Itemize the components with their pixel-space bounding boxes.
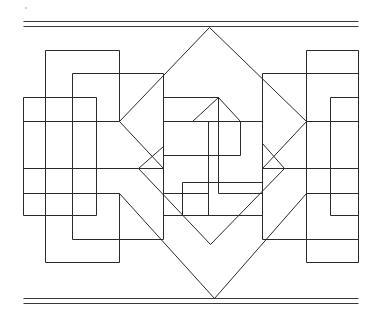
vertical-lines	[24, 51, 359, 263]
scan-specks	[25, 7, 27, 9]
geometric-line-diagram	[0, 0, 380, 323]
horizontal-lines	[24, 51, 359, 263]
diagonal-line	[193, 98, 219, 122]
diagonal-line	[219, 98, 241, 122]
border-rules	[24, 22, 359, 304]
diagonal-line	[120, 194, 215, 299]
diagonal-line	[211, 169, 285, 245]
diagonal-lines	[120, 28, 307, 299]
diagonal-line	[120, 28, 210, 122]
diagonal-line	[263, 122, 307, 169]
diagonal-line	[139, 169, 211, 245]
scan-speck	[25, 7, 27, 9]
diagonal-line	[210, 28, 307, 122]
diagonal-line	[120, 122, 164, 169]
diagram-svg	[0, 0, 380, 323]
diagonal-line	[215, 194, 307, 299]
